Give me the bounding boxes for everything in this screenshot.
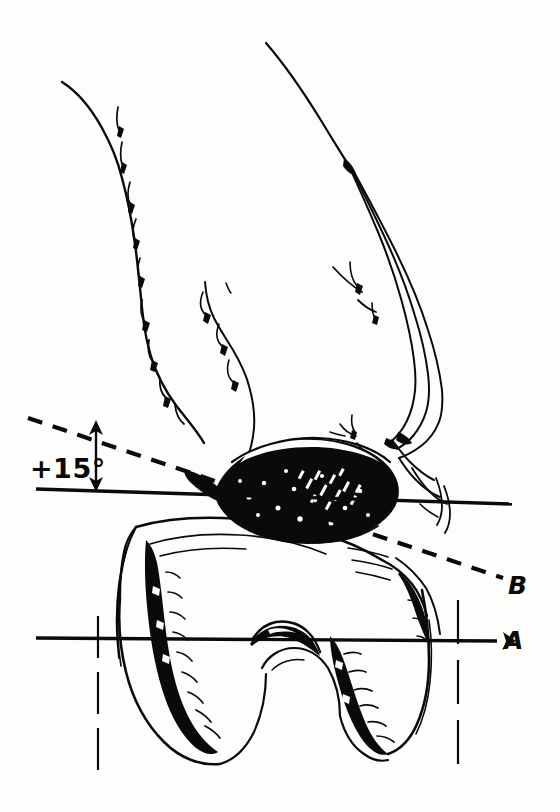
femoral-condyles bbox=[117, 527, 440, 764]
figure-canvas: +15° B A A bbox=[0, 0, 560, 812]
knee-illustration: +15° B A bbox=[0, 0, 560, 812]
upper-right-detail-marks bbox=[330, 262, 379, 468]
upper-left-bone-contour bbox=[62, 82, 204, 443]
angle-label: +15° bbox=[30, 453, 106, 484]
upper-middle-bone-contour bbox=[201, 282, 255, 462]
fiber-bundle-lines bbox=[266, 43, 442, 458]
line-b-label: B bbox=[508, 571, 527, 600]
line-a-label-glyph: A bbox=[504, 628, 523, 653]
meniscus-black-lens bbox=[185, 438, 399, 544]
lateral-soft-tissue bbox=[392, 440, 450, 533]
